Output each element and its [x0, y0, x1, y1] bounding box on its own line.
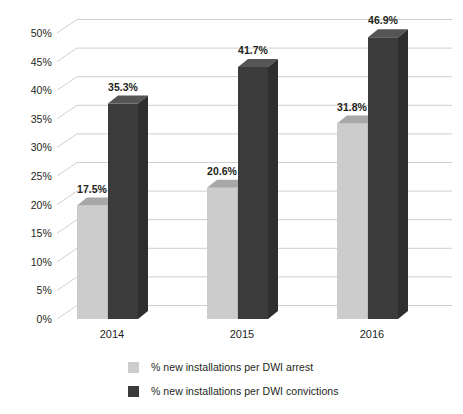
bar-side-face [268, 59, 278, 319]
legend-label-arrest: % new installations per DWI arrest [151, 361, 313, 373]
bar-2014-convictions [108, 96, 148, 319]
x-tick-label-2015: 2015 [207, 328, 277, 340]
bar-side-face [138, 96, 148, 319]
plot-area [0, 0, 463, 414]
bar-front-face [207, 188, 237, 319]
legend-swatch-arrest [128, 362, 139, 373]
bar-front-face [368, 37, 398, 319]
bar-2016-convictions [368, 29, 408, 319]
bar-front-face [238, 67, 268, 319]
x-tick-label-2016: 2016 [337, 328, 407, 340]
data-label-2014-convictions: 35.3% [93, 81, 153, 93]
legend: % new installations per DWI arrest % new… [128, 356, 448, 404]
data-label-2016-convictions: 46.9% [353, 14, 413, 26]
legend-item-convictions: % new installations per DWI convictions [128, 380, 448, 402]
bar-front-face [108, 104, 138, 319]
legend-label-convictions: % new installations per DWI convictions [151, 385, 339, 397]
data-label-2015-arrest: 20.6% [192, 165, 252, 177]
data-label-2015-convictions: 41.7% [223, 44, 283, 56]
data-label-2016-arrest: 31.8% [322, 101, 382, 113]
data-label-2014-arrest: 17.5% [62, 183, 122, 195]
bar-side-face [398, 29, 408, 319]
bar-front-face [77, 205, 107, 319]
x-tick-label-2014: 2014 [77, 328, 147, 340]
bar-2015-convictions [238, 59, 278, 319]
chart-container: 50% 45% 40% 35% 30% 25% 20% 15% 10% 5% 0… [0, 0, 463, 414]
bar-front-face [337, 124, 367, 319]
legend-item-arrest: % new installations per DWI arrest [128, 356, 448, 378]
legend-swatch-convictions [128, 386, 139, 397]
